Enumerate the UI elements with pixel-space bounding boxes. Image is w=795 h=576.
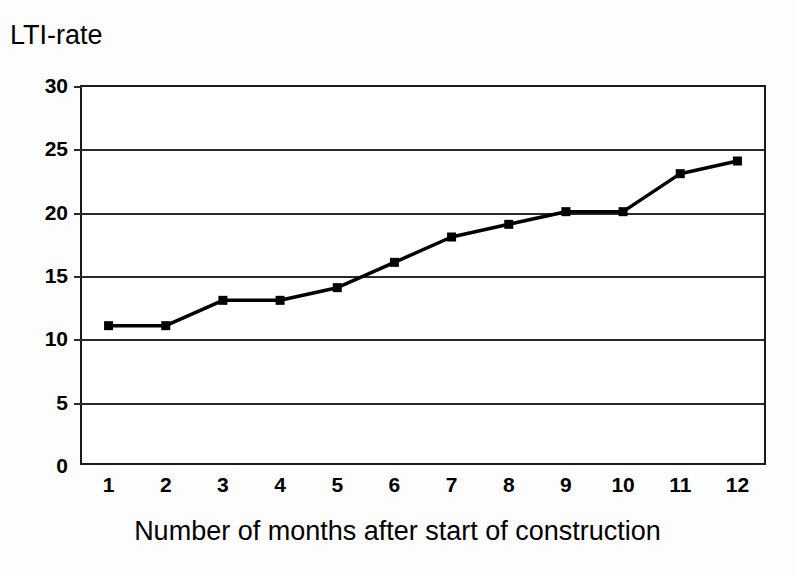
y-tick-mark <box>74 403 82 405</box>
y-axis-title: LTI-rate <box>10 22 103 49</box>
x-tick-label: 6 <box>389 474 401 495</box>
x-tick-label: 1 <box>103 474 115 495</box>
gridline-y <box>82 149 764 151</box>
y-tick-label: 0 <box>56 455 68 476</box>
y-tick-mark <box>74 149 82 151</box>
y-tick-label: 25 <box>45 138 68 159</box>
x-tick-label: 11 <box>669 474 691 495</box>
y-tick-mark <box>74 339 82 341</box>
x-tick-label: 2 <box>160 474 172 495</box>
y-tick-label: 15 <box>45 265 68 286</box>
y-tick-mark <box>74 213 82 215</box>
x-axis-title: Number of months after start of construc… <box>0 518 795 545</box>
x-tick-label: 7 <box>446 474 458 495</box>
y-tick-label: 5 <box>56 391 68 412</box>
plot-area <box>80 85 766 465</box>
y-tick-label: 30 <box>45 75 68 96</box>
y-tick-mark <box>74 276 82 278</box>
x-tick-label: 4 <box>274 474 286 495</box>
gridline-y <box>82 339 764 341</box>
gridline-y <box>82 276 764 278</box>
x-tick-label: 3 <box>217 474 229 495</box>
x-tick-label: 5 <box>331 474 343 495</box>
x-tick-label: 10 <box>611 474 634 495</box>
gridline-y <box>82 213 764 215</box>
chart-figure: LTI-rate Number of months after start of… <box>0 0 795 576</box>
y-tick-mark <box>74 86 82 88</box>
y-tick-label: 10 <box>45 328 68 349</box>
x-tick-label: 8 <box>503 474 515 495</box>
x-tick-label: 12 <box>726 474 749 495</box>
y-tick-label: 20 <box>45 201 68 222</box>
x-tick-label: 9 <box>560 474 572 495</box>
gridline-y <box>82 403 764 405</box>
